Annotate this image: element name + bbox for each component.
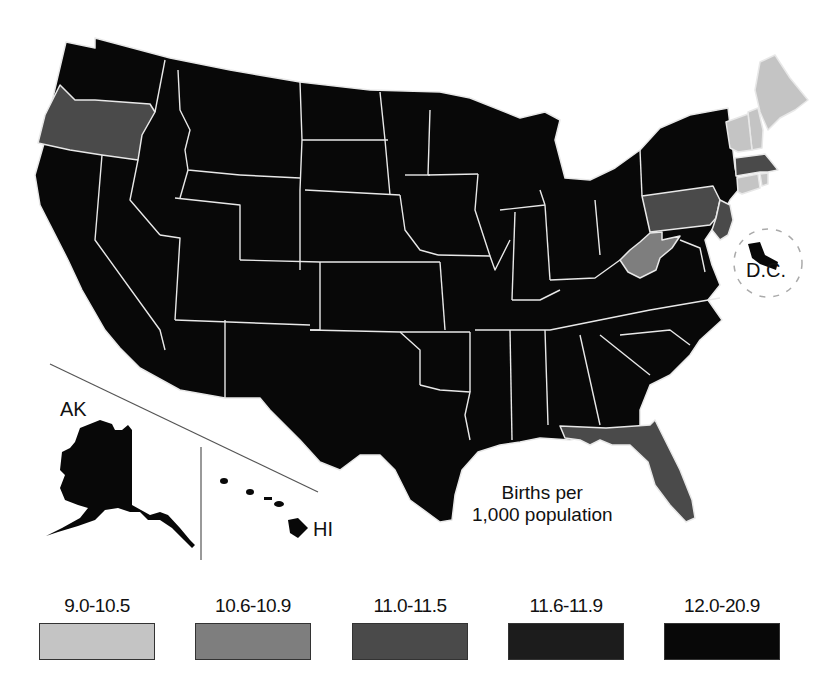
legend-label: 11.0-11.5 xyxy=(345,595,475,617)
legend-item-4: 11.6-11.9 xyxy=(501,595,631,660)
us-choropleth-map xyxy=(0,0,829,674)
legend-label: 11.6-11.9 xyxy=(501,595,631,617)
legend-swatch xyxy=(508,623,624,660)
state-ri xyxy=(760,173,768,186)
legend-label: 9.0-10.5 xyxy=(32,595,162,617)
legend-item-2: 10.6-10.9 xyxy=(188,595,318,660)
state-ct xyxy=(737,174,760,194)
legend-item-1: 9.0-10.5 xyxy=(32,595,162,660)
state-hi xyxy=(220,478,308,538)
legend-swatch xyxy=(195,623,311,660)
legend-item-3: 11.0-11.5 xyxy=(345,595,475,660)
legend-swatch xyxy=(39,623,155,660)
map-title-line-1: Births per xyxy=(472,482,613,504)
legend-item-5: 12.0-20.9 xyxy=(657,595,787,660)
alaska-label: AK xyxy=(60,398,87,421)
state-ma xyxy=(735,154,778,176)
map-title-line-2: 1,000 population xyxy=(472,504,613,526)
legend-swatch xyxy=(664,623,780,660)
map-title: Births per 1,000 population xyxy=(472,482,613,526)
legend: 9.0-10.5 10.6-10.9 11.0-11.5 11.6-11.9 1… xyxy=(40,595,820,665)
state-ak xyxy=(46,420,195,548)
legend-swatch xyxy=(352,623,468,660)
legend-label: 10.6-10.9 xyxy=(188,595,318,617)
state-me xyxy=(755,55,808,130)
legend-label: 12.0-20.9 xyxy=(657,595,787,617)
dc-label: D.C. xyxy=(746,259,786,282)
hawaii-label: HI xyxy=(313,518,333,541)
